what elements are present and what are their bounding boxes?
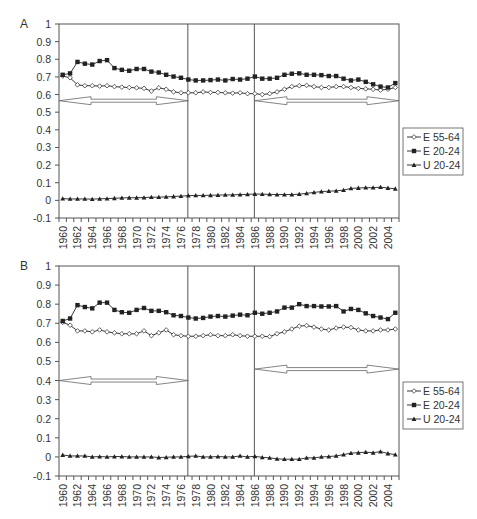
data-point-square [186, 315, 190, 319]
data-point-diamond [304, 83, 309, 88]
data-point-diamond [179, 333, 184, 338]
data-point-square [112, 308, 116, 312]
x-tick-label: 1966 [101, 226, 113, 250]
x-tick-label: 1970 [131, 484, 143, 508]
data-point-diamond [326, 85, 331, 90]
data-point-square [282, 305, 286, 309]
data-point-diamond [127, 331, 132, 336]
data-point-square [371, 82, 375, 86]
x-tick-label: 1962 [71, 226, 83, 250]
y-tick-label: -0.1 [33, 470, 51, 482]
data-point-diamond [260, 92, 265, 97]
data-point-square [216, 314, 220, 318]
data-point-square [327, 74, 331, 78]
data-point-square [142, 306, 146, 310]
legend-label: U 20-24 [423, 413, 461, 425]
x-tick-label: 1976 [175, 484, 187, 508]
data-point-diamond [297, 324, 302, 329]
data-point-square [304, 73, 308, 77]
data-point-diamond [223, 90, 228, 95]
data-point-diamond [378, 328, 383, 333]
y-tick-label: 0.5 [36, 355, 51, 367]
data-point-square [238, 77, 242, 81]
data-point-diamond [134, 331, 139, 336]
data-point-diamond [201, 333, 206, 338]
x-tick-label: 1978 [190, 484, 202, 508]
data-point-diamond [393, 327, 398, 332]
data-point-square [127, 311, 131, 315]
data-point-square [378, 315, 382, 319]
y-tick-label: 0.7 [36, 71, 51, 83]
data-point-square [216, 77, 220, 81]
x-tick-label: 1968 [116, 226, 128, 250]
data-point-square [319, 73, 323, 77]
data-point-square [120, 310, 124, 314]
data-point-diamond [371, 87, 376, 92]
data-point-square [260, 312, 264, 316]
x-tick-label: 1992 [293, 226, 305, 250]
data-point-square [267, 311, 271, 315]
data-point-diamond [156, 331, 161, 336]
x-tick-label: 2000 [352, 484, 364, 508]
x-tick-label: 1962 [71, 484, 83, 508]
figure: A10.90.80.70.60.50.40.30.20.10-0.1196019… [0, 0, 477, 519]
data-point-diamond [149, 89, 154, 94]
data-point-diamond [356, 328, 361, 333]
period-arrow [59, 97, 188, 105]
x-tick-label: 1974 [160, 484, 172, 508]
data-point-square [186, 77, 190, 81]
x-tick-label: 1998 [338, 226, 350, 250]
data-point-square [112, 66, 116, 70]
data-point-square [260, 76, 264, 80]
data-point-diamond [193, 334, 198, 339]
data-point-square [312, 304, 316, 308]
data-point-square [171, 313, 175, 317]
x-tick-label: 1972 [145, 226, 157, 250]
data-point-diamond [134, 86, 139, 91]
legend-label: U 20-24 [423, 159, 461, 171]
data-point-diamond [312, 325, 317, 330]
data-point-square [127, 69, 131, 73]
data-point-square [83, 305, 87, 309]
y-tick-label: 0.1 [36, 432, 51, 444]
data-point-diamond [179, 90, 184, 95]
x-tick-label: 1982 [219, 484, 231, 508]
x-tick-label: 1990 [278, 226, 290, 250]
data-point-diamond [238, 333, 243, 338]
panel-label: B [20, 259, 28, 273]
data-point-square [134, 308, 138, 312]
data-point-square [349, 307, 353, 311]
data-point-diamond [97, 328, 102, 333]
y-tick-label: -0.1 [33, 212, 51, 224]
x-tick-label: 2002 [367, 226, 379, 250]
x-tick-label: 1960 [57, 484, 69, 508]
data-point-square [290, 72, 294, 76]
data-point-square [282, 73, 286, 77]
data-point-square [223, 78, 227, 82]
data-point-diamond [341, 84, 346, 89]
x-tick-label: 1982 [219, 226, 231, 250]
data-point-square [304, 304, 308, 308]
data-point-square [245, 313, 249, 317]
data-point-square [208, 78, 212, 82]
y-tick-label: 0 [45, 194, 51, 206]
data-point-square [275, 309, 279, 313]
data-point-diamond [349, 325, 354, 330]
x-tick-label: 1972 [145, 484, 157, 508]
data-point-square [97, 300, 101, 304]
period-arrow [255, 97, 399, 105]
y-tick-label: 0.2 [36, 413, 51, 425]
y-tick-label: 0.3 [36, 394, 51, 406]
data-point-diamond [201, 90, 206, 95]
data-point-diamond [245, 91, 250, 96]
data-point-diamond [223, 333, 228, 338]
data-point-diamond [349, 85, 354, 90]
data-point-square [290, 305, 294, 309]
x-tick-label: 1988 [264, 226, 276, 250]
data-point-diamond [186, 334, 191, 339]
data-point-diamond [171, 332, 176, 337]
data-point-square [68, 316, 72, 320]
data-point-diamond [164, 328, 169, 333]
data-point-square [341, 309, 345, 313]
legend-label: E 55-64 [423, 385, 460, 397]
